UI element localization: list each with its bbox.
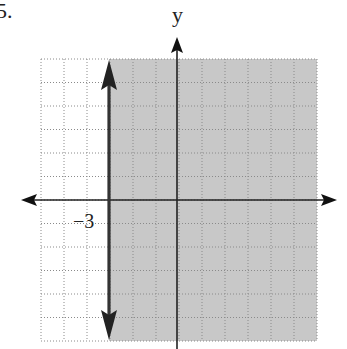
y-axis-label: y <box>172 2 183 27</box>
coordinate-plane: y −3 <box>0 0 347 349</box>
x-tick-label-neg3: −3 <box>73 210 94 232</box>
